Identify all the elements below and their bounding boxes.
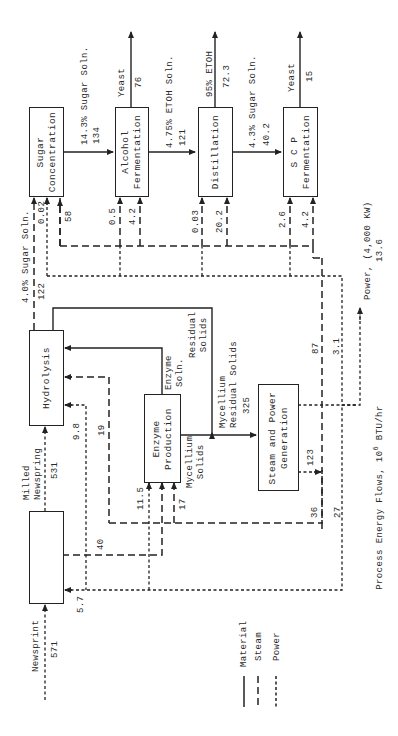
energy-ep-a: 11.5	[136, 487, 147, 510]
energy-steam-total: 123	[306, 449, 317, 466]
energy-di-a: 0.03	[191, 210, 202, 233]
newsprint-value: 571	[50, 641, 61, 658]
caption-unit: BTU/hr	[375, 405, 385, 440]
energy-power-27: 27	[333, 506, 344, 518]
figure-caption: Process Energy Flows, 106 BTU/hr	[360, 405, 397, 613]
residual-solids-label: Residual Solids	[188, 312, 210, 358]
energy-mill-a: 40	[96, 538, 107, 550]
mycellium-residual-value: 325	[242, 397, 253, 414]
milled-newsprint-label: Milled Newspring	[22, 448, 44, 500]
energy-scp-a: 2.6	[278, 211, 289, 228]
distillation-box: Distillation	[198, 107, 233, 197]
caption-exponent: 6	[372, 446, 380, 451]
yeast-af-value: 76	[134, 76, 145, 88]
caption-text: Process Energy Flows, 10	[375, 451, 385, 590]
energy-power-3-1: 3.1	[332, 338, 343, 355]
energy-hy-a: 9.8	[72, 423, 83, 440]
newsprint-label: Newsprint	[31, 620, 42, 672]
milling-box	[29, 511, 64, 604]
power-out-label: Power, (4,000 KW)	[363, 201, 374, 300]
alcohol-fermentation-box: Alcohol Fermentation	[115, 107, 149, 197]
sugar-4-3pct-value: 40.2	[262, 123, 273, 146]
etoh-95-label: 95% ETOH	[205, 51, 216, 97]
steam-power-generation-label: Steam and Power Generation	[267, 391, 291, 484]
enzyme-production-label: Enzyme Production	[151, 407, 175, 469]
sugar-concentration-box: Sugar Concentration	[29, 107, 64, 197]
enzyme-production-box: Enzyme Production	[144, 394, 181, 483]
hydrolysis-box: Hydrolysis	[29, 330, 64, 426]
etoh-soln-label: 4.75% ETOH Soln.	[165, 55, 176, 148]
mycellium-residual-label: Mycellium Residual Solids	[218, 341, 240, 428]
enzyme-soln-label: Enzyme Soln.	[164, 355, 186, 390]
power-out-value: 13.6	[375, 239, 386, 262]
yeast-scp-label: Yeast	[287, 63, 298, 92]
energy-af-b: 4.2	[128, 208, 139, 225]
energy-steam-87: 87	[311, 342, 322, 354]
alcohol-fermentation-label: Alcohol Fermentation	[120, 115, 144, 189]
etoh-95-value: 72.3	[222, 65, 233, 88]
energy-sc-b: 58	[64, 210, 75, 222]
sugar-14pct-label: 14.3% Sugar Soln.	[80, 46, 91, 145]
steam-power-generation-box: Steam and Power Generation	[258, 384, 299, 491]
mycellium-solids-label: Mycellium Solids	[185, 436, 207, 488]
energy-di-b: 20.2	[215, 210, 226, 233]
legend-power: Power	[272, 632, 283, 661]
sugar-concentration-label: Sugar Concentration	[35, 112, 59, 193]
legend-material: Material	[239, 621, 250, 667]
yeast-af-label: Yeast	[117, 68, 128, 97]
energy-sc-a: 0.02	[37, 201, 48, 224]
sugar-14pct-value: 134	[92, 127, 103, 144]
sugar-4pct-label: 4.0% Sugar Soln.	[21, 210, 32, 303]
scp-fermentation-label: S C P Fermentation	[289, 115, 313, 189]
energy-hy-b: 19	[97, 424, 108, 436]
process-flow-diagram: Sugar Concentration Alcohol Fermentation…	[0, 0, 398, 736]
yeast-scp-value: 15	[305, 70, 316, 82]
hydrolysis-label: Hydrolysis	[41, 347, 53, 409]
legend-steam: Steam	[254, 632, 265, 661]
sugar-4-3pct-label: 4.3% Sugar Soln.	[248, 55, 259, 148]
sugar-4pct-value: 122	[37, 283, 48, 300]
energy-af-a: 0.5	[108, 208, 119, 225]
etoh-soln-value: 121	[178, 129, 189, 146]
distillation-label: Distillation	[210, 115, 222, 189]
energy-scp-b: 4.2	[301, 211, 312, 228]
energy-mill-b: 5.7	[76, 596, 87, 613]
energy-steam-36: 36	[310, 506, 321, 518]
milled-newsprint-value: 531	[50, 462, 61, 479]
scp-fermentation-box: S C P Fermentation	[283, 107, 318, 197]
energy-ep-b: 17	[178, 498, 189, 510]
